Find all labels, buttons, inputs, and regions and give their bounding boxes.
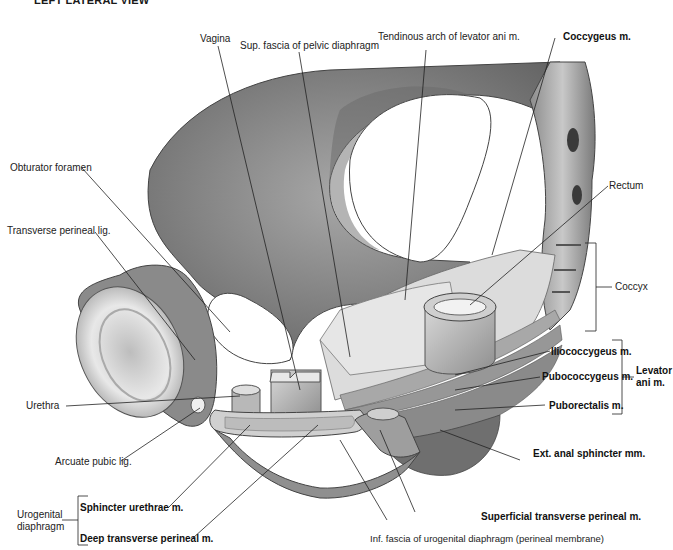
label-levator-ani-1: Levator [636,365,672,377]
label-rectum: Rectum [609,180,643,192]
label-iliococcygeus: Iliococcygeus m. [551,346,632,358]
label-puborectalis: Puborectalis m. [549,400,623,412]
label-arcuate-pubic-lig: Arcuate pubic lig. [55,456,132,468]
label-coccyx: Coccyx [615,281,648,293]
label-transverse-perineal-lig: Transverse perineal lig. [7,225,111,237]
label-deep-transverse-perineal: Deep transverse perineal m. [80,533,213,545]
rectum-shape [424,293,496,374]
label-urethra: Urethra [26,400,59,412]
label-sphincter-urethrae: Sphincter urethrae m. [80,502,183,514]
label-levator-ani-2: ani m. [636,377,665,389]
label-sup-fascia: Sup. fascia of pelvic diaphragm [240,40,379,52]
urethra-shape [232,385,260,415]
label-tendinous-arch: Tendinous arch of levator ani m. [378,31,520,43]
urogenital-diaphragm-shape [210,410,366,437]
label-urogenital-2: diaphragm [17,521,64,533]
label-coccygeus: Coccygeus m. [563,31,631,43]
label-superficial-transverse-perineal: Superficial transverse perineal m. [481,511,641,523]
label-ext-anal-sphincter: Ext. anal sphincter mm. [533,448,645,460]
label-inf-fascia: Inf. fascia of urogenital diaphragm (per… [370,533,604,545]
label-obturator-foramen: Obturator foramen [10,162,92,174]
label-pubococcygeus: Pubococcygeus m. [542,371,633,383]
label-vagina: Vagina [200,33,230,45]
label-urogenital-1: Urogenital [17,509,63,521]
